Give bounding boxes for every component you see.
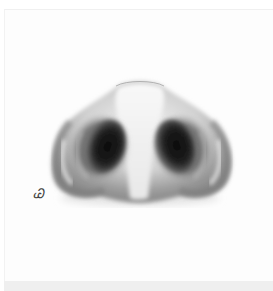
- artist-signature: Ꮚ: [33, 186, 44, 202]
- nose-drawing: [0, 0, 273, 291]
